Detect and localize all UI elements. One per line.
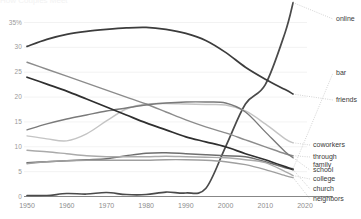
leader-line-online: [293, 3, 333, 19]
y-tick-label: 5: [0, 168, 22, 175]
series-label-church[interactable]: church: [313, 185, 334, 193]
x-tick-label: 2000: [211, 202, 241, 209]
y-tick-label: 35%: [0, 19, 22, 26]
series-label-online[interactable]: online: [336, 15, 355, 23]
series-label-neighbors[interactable]: neighbors: [313, 195, 344, 203]
y-tick-label: 25: [0, 68, 22, 75]
line-chart: How Couples Meet 05101520253035% 1950196…: [0, 0, 361, 219]
gridlines: [24, 23, 307, 197]
x-tick-label: 1980: [131, 202, 161, 209]
y-tick-label: 20: [0, 93, 22, 100]
x-tick-label: 1970: [91, 202, 121, 209]
series-line-friends[interactable]: [27, 27, 293, 94]
leader-line-neighbors: [293, 178, 310, 199]
y-tick-label: 15: [0, 118, 22, 125]
x-tick-label: 1950: [12, 202, 42, 209]
y-tick-label: 30: [0, 43, 22, 50]
x-tick-label: 2020: [290, 202, 320, 209]
series-lines: [27, 3, 293, 196]
series-label-school[interactable]: school: [313, 166, 333, 174]
series-label-coworkers[interactable]: coworkers: [313, 141, 345, 149]
series-label-college[interactable]: college: [313, 175, 335, 183]
series-line-through-family[interactable]: [27, 62, 293, 155]
series-line-neighbors[interactable]: [27, 160, 293, 178]
x-tick-label: 1960: [52, 202, 82, 209]
x-tick-label: 1990: [171, 202, 201, 209]
chart-plot-area: [0, 0, 361, 219]
y-tick-label: 0: [0, 193, 22, 200]
leader-line-through-family: [293, 156, 310, 157]
y-tick-label: 10: [0, 143, 22, 150]
leader-line-coworkers: [293, 143, 310, 145]
leader-line-church: [293, 170, 310, 189]
series-label-bar[interactable]: bar: [336, 69, 346, 77]
series-label-friends[interactable]: friends: [336, 96, 357, 104]
series-label-line: through: [313, 153, 337, 161]
leader-line-school: [293, 158, 310, 170]
x-tick-label: 2010: [250, 202, 280, 209]
leader-line-college: [293, 176, 310, 179]
